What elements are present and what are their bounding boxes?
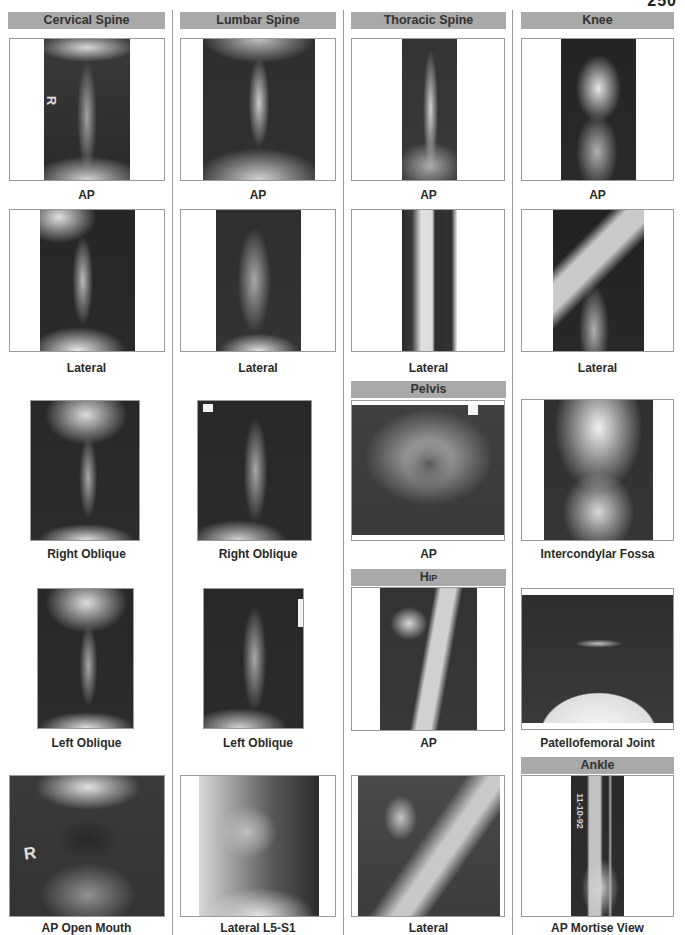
side-marker: R	[44, 96, 59, 105]
xray-lumbar-ap	[180, 38, 336, 181]
xray-lumbar-left-oblique	[203, 588, 304, 729]
caption-lumbar-left-oblique: Left Oblique	[180, 736, 336, 750]
xray-thoracic-ap	[351, 38, 505, 181]
caption-cervical-right-oblique: Right Oblique	[8, 547, 165, 561]
xray-knee-lateral	[521, 209, 674, 352]
caption-lumbar-lateral-l5-s1: Lateral L5-S1	[180, 921, 336, 935]
caption-thoracic-lateral: Lateral	[351, 361, 506, 375]
caption-knee-lateral: Lateral	[521, 361, 674, 375]
xray-cervical-ap-open-mouth: R	[9, 775, 165, 917]
xray-cervical-ap: R	[9, 38, 165, 181]
xray-knee-ap	[521, 38, 674, 181]
xray-lumbar-lateral-l5-s1	[180, 775, 336, 917]
section-header-thoracic-spine: Thoracic Spine	[351, 12, 506, 29]
section-header-pelvis: Pelvis	[351, 381, 506, 398]
column-divider	[512, 10, 513, 935]
caption-knee-intercondylar-fossa: Intercondylar Fossa	[521, 547, 674, 561]
section-header-knee: Knee	[521, 12, 674, 29]
caption-ankle-ap-mortise-view: AP Mortise View	[521, 921, 674, 935]
caption-lumbar-right-oblique: Right Oblique	[180, 547, 336, 561]
date-marker: 11-10-92	[575, 793, 585, 829]
caption-lumbar-ap: AP	[180, 188, 336, 202]
caption-pelvis-ap: AP	[351, 547, 506, 561]
caption-cervical-ap-open-mouth: AP Open Mouth	[8, 921, 165, 935]
column-divider	[343, 10, 344, 935]
page-number: 250	[647, 0, 677, 10]
xray-hip-lateral	[351, 775, 505, 917]
column-divider	[172, 10, 173, 935]
caption-hip-lateral: Lateral	[351, 921, 506, 935]
caption-hip-ap: AP	[351, 736, 506, 750]
section-header-lumbar-spine: Lumbar Spine	[180, 12, 336, 29]
caption-knee-ap: AP	[521, 188, 674, 202]
section-header-hip: Hip	[351, 569, 506, 586]
caption-cervical-lateral: Lateral	[8, 361, 165, 375]
section-header-ankle: Ankle	[521, 757, 674, 774]
xray-ankle-ap-mortise: 11-10-92	[521, 775, 674, 917]
section-header-cervical-spine: Cervical Spine	[8, 12, 165, 29]
caption-knee-patellofemoral-joint: Patellofemoral Joint	[521, 736, 674, 750]
xray-pelvis-ap	[351, 400, 505, 541]
xray-thoracic-lateral	[351, 209, 505, 352]
xray-knee-patellofemoral-joint	[521, 588, 674, 730]
xray-knee-intercondylar-fossa	[521, 399, 674, 541]
xray-lumbar-right-oblique	[197, 400, 312, 541]
caption-lumbar-lateral: Lateral	[180, 361, 336, 375]
caption-cervical-left-oblique: Left Oblique	[8, 736, 165, 750]
xray-cervical-right-oblique	[30, 400, 140, 541]
xray-lumbar-lateral	[180, 209, 336, 352]
caption-cervical-ap: AP	[8, 188, 165, 202]
xray-cervical-lateral	[9, 209, 165, 352]
caption-thoracic-ap: AP	[351, 188, 506, 202]
side-marker: R	[23, 843, 38, 865]
xray-hip-ap	[351, 587, 505, 731]
xray-cervical-left-oblique	[37, 588, 134, 729]
